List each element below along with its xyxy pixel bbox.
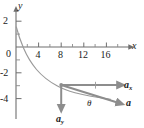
vector-ay-label: ay xyxy=(56,114,64,124)
curve-path xyxy=(16,27,110,99)
y-axis-label: y xyxy=(18,1,22,11)
y-tick-label-minus2: -2 xyxy=(0,68,8,78)
x-tick-label-16: 16 xyxy=(101,50,111,60)
x-axis-label: x xyxy=(132,41,136,51)
figure-canvas: y x 2 0 -2 -4 4 8 12 16 ax ay a θ xyxy=(0,0,144,128)
y-tick-label-2: 2 xyxy=(3,16,8,26)
x-tick-label-12: 12 xyxy=(78,50,88,60)
vector-a-label-base: a xyxy=(126,97,131,108)
y-tick-label-minus4: -4 xyxy=(0,94,8,104)
y-tick-label-0: 0 xyxy=(6,49,11,59)
vector-ax-label: ax xyxy=(124,80,132,90)
vector-ax-label-sub: x xyxy=(129,84,132,91)
x-axis xyxy=(16,43,129,48)
theta-label: θ xyxy=(87,99,91,108)
x-tick-label-8: 8 xyxy=(58,50,63,60)
vector-a-label: a xyxy=(126,98,131,108)
figure-svg xyxy=(0,0,144,128)
x-tick-label-4: 4 xyxy=(36,50,41,60)
vertex-point xyxy=(59,83,63,87)
vector-ay-label-sub: y xyxy=(61,118,64,125)
